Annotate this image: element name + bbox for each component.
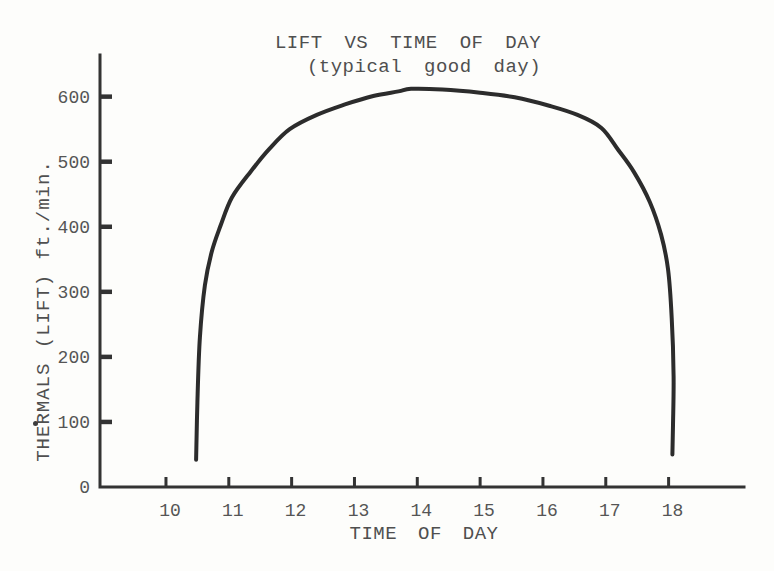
lift-vs-time-plot: 1011121314151617180100200300400500600 [0, 0, 774, 571]
x-tick-label-16: 16 [536, 501, 558, 521]
scanned-chart-page: 1011121314151617180100200300400500600 LI… [0, 0, 774, 571]
x-tick-label-14: 14 [410, 501, 432, 521]
x-tick-label-15: 15 [473, 501, 495, 521]
x-tick-label-12: 12 [285, 501, 307, 521]
y-tick-label-300: 300 [58, 283, 90, 303]
chart-title: LIFT VS TIME OF DAY [275, 32, 541, 54]
chart-subtitle: (typical good day) [307, 56, 541, 78]
y-tick-label-0: 0 [79, 478, 90, 498]
x-axis-label: TIME OF DAY [350, 523, 499, 545]
x-tick-label-10: 10 [159, 501, 181, 521]
y-axis-label: THERMALS (LIFT) ft./min. [33, 160, 55, 462]
y-tick-label-400: 400 [58, 218, 90, 238]
y-tick-label-500: 500 [58, 153, 90, 173]
x-tick-label-11: 11 [222, 501, 244, 521]
x-tick-label-18: 18 [662, 501, 684, 521]
x-tick-label-17: 17 [599, 501, 621, 521]
y-tick-label-600: 600 [58, 88, 90, 108]
lift-curve [196, 89, 674, 460]
y-tick-label-100: 100 [58, 413, 90, 433]
x-tick-label-13: 13 [348, 501, 370, 521]
y-tick-label-200: 200 [58, 348, 90, 368]
ink-dot [33, 421, 38, 426]
